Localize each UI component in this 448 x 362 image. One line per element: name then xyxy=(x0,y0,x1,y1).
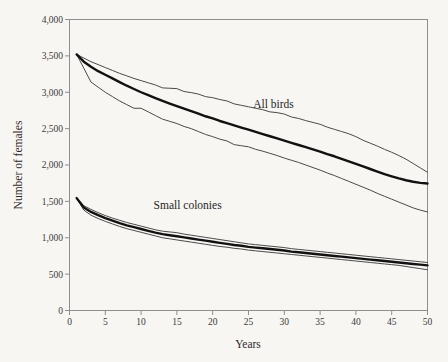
x-axis-title: Years xyxy=(235,338,261,350)
x-tick-label: 25 xyxy=(244,317,254,327)
y-tick-label: 1,500 xyxy=(42,197,64,207)
y-tick-label: 3,500 xyxy=(42,51,64,61)
y-tick-label: 3,000 xyxy=(42,88,64,98)
x-tick-label: 50 xyxy=(423,317,433,327)
x-tick-label: 35 xyxy=(315,317,325,327)
y-tick-label: 500 xyxy=(49,270,64,280)
x-tick-label: 45 xyxy=(387,317,397,327)
series-annotation-label: Small colonies xyxy=(154,199,223,211)
x-tick-label: 0 xyxy=(67,317,72,327)
x-tick-label: 15 xyxy=(172,317,182,327)
chart-background xyxy=(0,0,448,362)
chart-container: 05001,0001,5002,0002,5003,0003,5004,000 … xyxy=(0,0,448,362)
y-tick-label: 0 xyxy=(58,306,63,316)
x-tick-label: 20 xyxy=(208,317,218,327)
x-tick-label: 40 xyxy=(351,317,361,327)
y-tick-label: 2,000 xyxy=(42,160,64,170)
y-tick-label: 4,000 xyxy=(42,15,64,25)
y-tick-label: 2,500 xyxy=(42,124,64,134)
x-tick-label: 10 xyxy=(136,317,146,327)
population-projection-chart: 05001,0001,5002,0002,5003,0003,5004,000 … xyxy=(0,0,448,362)
series-annotation-label: All birds xyxy=(253,98,294,110)
x-tick-label: 5 xyxy=(103,317,108,327)
y-axis-title: Number of females xyxy=(12,120,24,209)
x-tick-label: 30 xyxy=(280,317,290,327)
y-tick-label: 1,000 xyxy=(42,233,64,243)
